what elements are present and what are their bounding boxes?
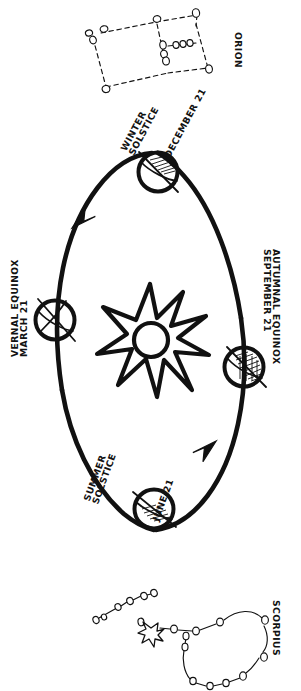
earth-shading-autumnal (235, 352, 261, 381)
label-orion: ORION (234, 32, 243, 68)
label-scorpius: SCORPIUS (272, 600, 281, 656)
sun-starburst[interactable] (97, 284, 209, 397)
orbit-arrow-left-icon (72, 206, 96, 230)
label-autumnal-equinox-line1: AUTUMNAL EQUINOX (271, 249, 282, 364)
constellation-orion[interactable] (85, 8, 213, 93)
orbit-arrow-right-icon (192, 439, 216, 463)
constellation-scorpius[interactable] (92, 589, 268, 690)
orbit-path[interactable] (57, 153, 245, 530)
orion-lines (93, 15, 208, 87)
scorpius-stars (92, 589, 268, 690)
diagram-canvas: ORION WINTER SOLSTICE DECEMBER 21 VERNAL… (0, 0, 301, 691)
label-vernal-equinox-line2: MARCH 21 (19, 259, 28, 357)
label-vernal-equinox: VERNAL EQUINOX MARCH 21 (10, 259, 29, 357)
sun-core (134, 323, 168, 357)
label-autumnal-equinox: AUTUMNAL EQUINOX SEPTEMBER 21 (262, 249, 281, 364)
